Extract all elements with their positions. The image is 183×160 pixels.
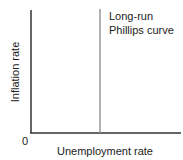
- y-axis-label: Inflation rate: [9, 42, 21, 103]
- origin-label: 0: [22, 135, 28, 147]
- phillips-curve-diagram: Long-run Phillips curve 0 Unemployment r…: [0, 0, 183, 160]
- x-axis-label: Unemployment rate: [57, 145, 153, 157]
- lrpc-label-line-2: Phillips curve: [109, 24, 174, 36]
- lrpc-label-line-1: Long-run: [109, 10, 153, 22]
